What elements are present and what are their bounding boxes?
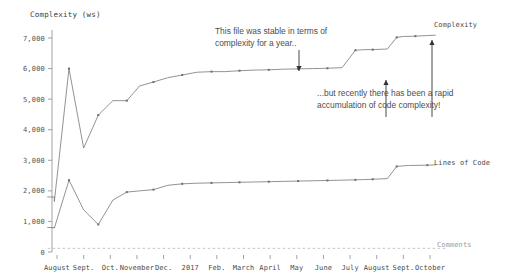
series-line-complexity	[48, 35, 436, 201]
data-point-marker	[68, 179, 70, 181]
data-point-marker	[297, 180, 299, 182]
arrow-head	[429, 40, 434, 45]
x-axis-tick-label: March	[233, 264, 255, 272]
complexity-chart: 01,0002,0003,0004,0005,0006,0007,000 Aug…	[0, 0, 509, 279]
data-point-marker	[268, 181, 270, 183]
series-label-complexity: Complexity	[434, 21, 477, 29]
x-axis-tick-label: April	[259, 264, 281, 272]
x-axis: AugustSept.Oct.NovemberDec.2017Feb.March…	[44, 255, 445, 272]
data-point-markers	[68, 35, 428, 225]
data-point-marker	[239, 70, 241, 72]
x-axis-tick-label: August	[364, 264, 390, 272]
x-axis-tick-label: June	[315, 264, 332, 272]
data-point-marker	[396, 36, 398, 38]
data-point-marker	[354, 49, 356, 51]
x-axis-tick-label: August	[44, 264, 70, 272]
x-axis-tick-label: Sept.	[73, 264, 95, 272]
y-axis-tick-label: 1,000	[23, 218, 45, 226]
y-axis-tick-label: 3,000	[23, 157, 45, 165]
data-point-marker	[97, 114, 99, 116]
data-point-marker	[426, 164, 428, 166]
x-axis-tick-label: July	[341, 264, 358, 272]
x-axis-tick-label: November	[120, 264, 155, 272]
data-point-marker	[181, 74, 183, 76]
data-point-marker	[68, 68, 70, 70]
arrow-head	[383, 80, 388, 85]
data-point-marker	[372, 178, 374, 180]
data-point-marker	[152, 189, 154, 191]
x-axis-tick-label: Dec.	[155, 264, 172, 272]
data-point-marker	[326, 179, 328, 181]
x-axis-tick-label: 2017	[182, 264, 199, 272]
x-axis-tick-label: Sept.	[393, 264, 415, 272]
y-axis: 01,0002,0003,0004,0005,0006,0007,000	[23, 30, 52, 257]
data-point-marker	[211, 182, 213, 184]
y-axis-tick-label: 6,000	[23, 65, 45, 73]
data-point-marker	[126, 100, 128, 102]
y-axis-tick-label: 4,000	[23, 126, 45, 134]
y-axis-tick-label: 2,000	[23, 187, 45, 195]
x-axis-tick-label: Feb.	[208, 264, 225, 272]
data-point-marker	[268, 69, 270, 71]
x-axis-tick-label: October	[415, 264, 445, 272]
annotation-stable: This file was stable in terms of complex…	[215, 26, 365, 49]
x-axis-tick-label: May	[290, 264, 303, 272]
x-axis-tick-label: Oct.	[102, 264, 119, 272]
data-point-marker	[97, 223, 99, 225]
data-point-marker	[326, 67, 328, 69]
annotation-rapid: ...but recently there has been a rapid a…	[317, 88, 497, 111]
data-point-marker	[354, 179, 356, 181]
series-label-comments: Comments	[437, 241, 472, 249]
series-layer	[48, 35, 446, 248]
data-point-marker	[152, 81, 154, 83]
data-point-marker	[181, 183, 183, 185]
data-point-marker	[126, 191, 128, 193]
y-axis-tick-label: 5,000	[23, 96, 45, 104]
data-point-marker	[372, 49, 374, 51]
series-line-lines-of-code	[48, 165, 436, 228]
series-label-lines-of-code: Lines of Code	[434, 159, 490, 167]
data-point-marker	[396, 165, 398, 167]
y-axis-tick-label: 0	[41, 249, 45, 257]
data-point-marker	[414, 35, 416, 37]
y-axis-title: Complexity (ws)	[30, 10, 101, 19]
data-point-marker	[239, 181, 241, 183]
data-point-marker	[211, 71, 213, 73]
y-axis-tick-label: 7,000	[23, 35, 45, 43]
